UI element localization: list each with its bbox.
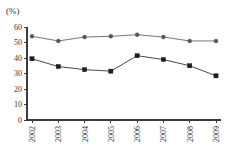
data-point-upper-series-2009 [214, 39, 218, 43]
data-point-upper-series-2002 [30, 34, 34, 38]
data-point-upper-series-2008 [188, 39, 192, 43]
y-axis-tick-labels: 0102030405060 [14, 23, 22, 125]
x-axis-tick-labels: 20022003200420052006200720082009 [28, 126, 221, 142]
data-point-upper-series-2006 [135, 33, 139, 37]
x-tick-label-2002: 2002 [28, 126, 37, 142]
x-tick-label-2009: 2009 [212, 126, 221, 142]
y-tick-label-60: 60 [14, 23, 22, 32]
y-tick-label-30: 30 [14, 69, 22, 78]
x-tick-label-2006: 2006 [133, 126, 142, 142]
data-point-lower-series-2005 [109, 69, 113, 73]
chart-plot-area: 0102030405060 20022003200420052006200720… [0, 0, 225, 154]
data-point-lower-series-2006 [135, 54, 139, 58]
data-point-upper-series-2005 [109, 34, 113, 38]
data-point-upper-series-2007 [161, 35, 165, 39]
data-point-lower-series-2002 [30, 57, 34, 61]
series-markers [30, 33, 218, 78]
x-tick-label-2005: 2005 [107, 126, 116, 142]
y-tick-label-0: 0 [18, 116, 22, 125]
data-point-lower-series-2004 [82, 68, 86, 72]
y-tick-label-20: 20 [14, 85, 22, 94]
data-point-lower-series-2007 [161, 57, 165, 61]
data-point-upper-series-2004 [83, 35, 87, 39]
x-tick-label-2008: 2008 [186, 126, 195, 142]
data-point-lower-series-2008 [188, 64, 192, 68]
x-tick-label-2007: 2007 [159, 126, 168, 142]
data-point-lower-series-2003 [56, 64, 60, 68]
data-point-upper-series-2003 [56, 39, 60, 43]
x-tick-label-2003: 2003 [54, 126, 63, 142]
y-tick-label-40: 40 [14, 54, 22, 63]
data-point-lower-series-2009 [214, 74, 218, 78]
line-chart: (%) 0102030405060 2002200320042005200620… [0, 0, 225, 154]
y-tick-label-50: 50 [14, 38, 22, 47]
x-tick-label-2004: 2004 [81, 126, 90, 142]
y-tick-label-10: 10 [14, 100, 22, 109]
